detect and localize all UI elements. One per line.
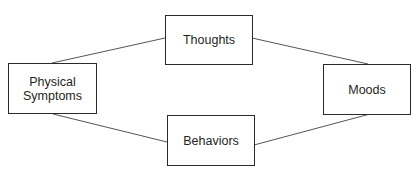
node-behaviors: Behaviors — [167, 115, 255, 166]
node-physical-label-line2: Symptoms — [23, 89, 82, 103]
node-moods-label: Moods — [348, 83, 386, 97]
node-physical-symptoms: Physical Symptoms — [8, 63, 97, 114]
edge-physical-behaviors — [53, 114, 167, 142]
node-thoughts-label: Thoughts — [183, 33, 235, 47]
edge-thoughts-moods — [252, 38, 368, 64]
node-thoughts: Thoughts — [165, 15, 253, 65]
node-behaviors-label: Behaviors — [183, 134, 239, 148]
edge-behaviors-moods — [254, 114, 370, 145]
edge-physical-thoughts — [52, 38, 165, 63]
node-physical-label-line1: Physical — [29, 75, 76, 89]
node-moods: Moods — [323, 64, 411, 115]
